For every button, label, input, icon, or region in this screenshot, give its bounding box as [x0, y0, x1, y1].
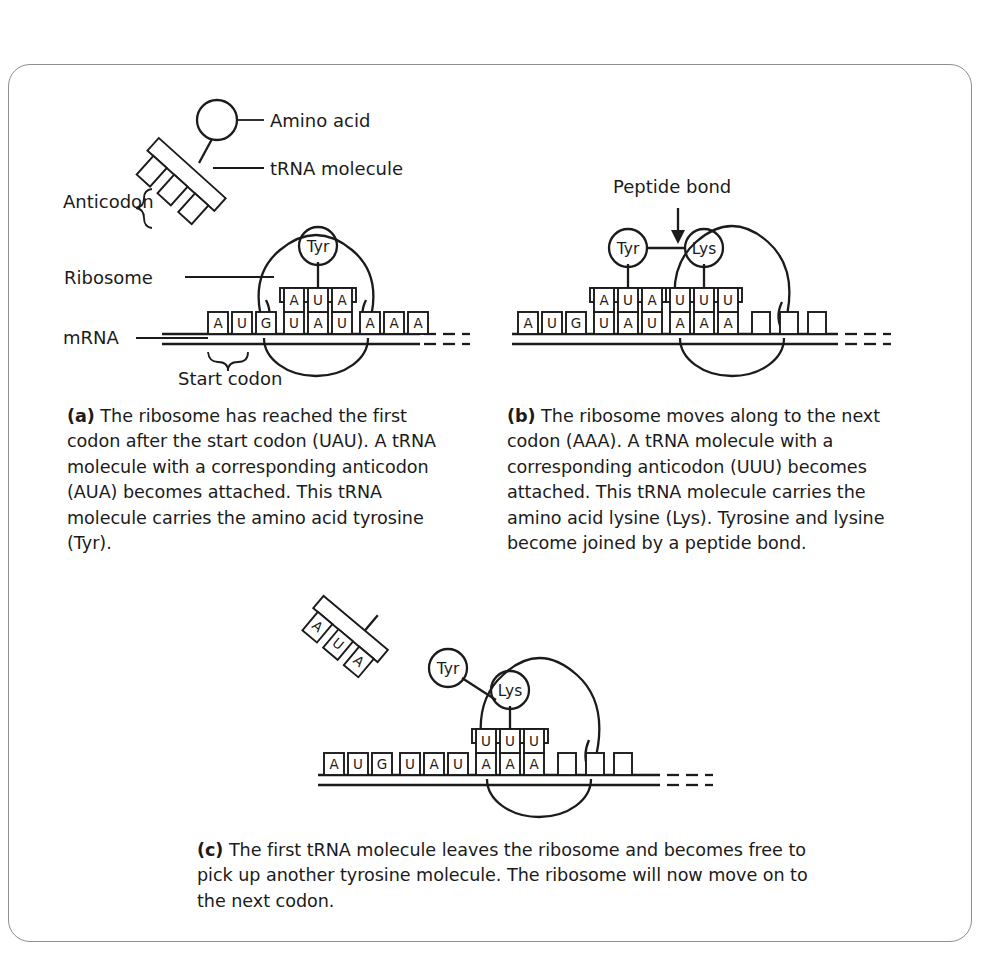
mrna-codon-boxes-a: A U G U A U A A A [208, 312, 428, 334]
panel-b-diagram: A U G U A U A A A A U [512, 208, 891, 376]
svg-text:A: A [523, 315, 533, 331]
svg-text:A: A [529, 756, 539, 772]
label-ribosome: Ribosome [64, 267, 153, 288]
empty-codon-box [586, 753, 604, 775]
panel-b-caption: (b) The ribosome moves along to the next… [507, 404, 907, 556]
svg-text:A: A [313, 315, 323, 331]
svg-text:A: A [389, 315, 399, 331]
svg-text:U: U [453, 756, 463, 772]
svg-text:U: U [647, 315, 657, 331]
svg-text:U: U [623, 292, 633, 308]
svg-text:A: A [429, 756, 439, 772]
mrna-codon-boxes-b: A U G U A U A A A [518, 312, 826, 334]
svg-text:U: U [405, 756, 415, 772]
panel-a-diagram: A U G U A U A A A A U A [136, 227, 470, 376]
svg-text:A: A [337, 292, 347, 308]
svg-text:U: U [699, 292, 709, 308]
tyr-label-c: Tyr [436, 660, 460, 678]
svg-text:U: U [289, 315, 299, 331]
svg-text:A: A [481, 756, 491, 772]
svg-text:A: A [365, 315, 375, 331]
svg-text:G: G [377, 756, 387, 772]
svg-text:Lys: Lys [692, 240, 716, 258]
panel-a-caption: (a) The ribosome has reached the first c… [67, 404, 439, 556]
svg-text:A: A [289, 292, 299, 308]
svg-text:U: U [599, 315, 609, 331]
svg-text:U: U [675, 292, 685, 308]
empty-codon-box [752, 312, 770, 334]
svg-text:G: G [261, 315, 271, 331]
svg-text:A: A [329, 756, 339, 772]
svg-text:U: U [353, 756, 363, 772]
empty-codon-box [780, 312, 798, 334]
svg-text:Tyr: Tyr [306, 238, 330, 256]
svg-text:A: A [413, 315, 423, 331]
svg-text:U: U [337, 315, 347, 331]
mrna-codon-boxes-c: A U G U A U A A A [324, 753, 632, 775]
label-mrna: mRNA [63, 327, 120, 348]
panel-c-caption-text: The first tRNA molecule leaves the ribos… [197, 840, 808, 911]
trna-tyr-b: A U A Tyr [590, 229, 666, 312]
peptide-bond-arrow-head [671, 230, 685, 244]
svg-text:A: A [675, 315, 685, 331]
label-anticodon: Anticodon [63, 191, 154, 212]
svg-text:Tyr: Tyr [616, 240, 640, 258]
empty-codon-box [558, 753, 576, 775]
amino-acid-stem [199, 139, 212, 163]
label-amino-acid: Amino acid [270, 110, 370, 131]
svg-text:U: U [313, 292, 323, 308]
svg-text:U: U [481, 733, 491, 749]
svg-text:U: U [723, 292, 733, 308]
trna-tyr-a: A U A Tyr [280, 227, 356, 312]
empty-codon-box [808, 312, 826, 334]
svg-text:U: U [547, 315, 557, 331]
svg-text:U: U [505, 733, 515, 749]
panel-b-tag: (b) [507, 406, 536, 426]
svg-text:A: A [599, 292, 609, 308]
label-trna-molecule: tRNA molecule [270, 158, 403, 179]
label-peptide-bond: Peptide bond [613, 176, 731, 197]
svg-text:A: A [699, 315, 709, 331]
panel-b-caption-text: The ribosome moves along to the next cod… [507, 406, 885, 553]
panel-c-caption: (c) The first tRNA molecule leaves the r… [197, 838, 812, 914]
label-start-codon: Start codon [178, 368, 282, 389]
svg-text:A: A [723, 315, 733, 331]
panel-a-tag: (a) [67, 406, 95, 426]
svg-text:G: G [571, 315, 581, 331]
panel-c-tag: (c) [197, 840, 223, 860]
free-trna-c: A U A [298, 580, 401, 680]
panel-a-caption-text: The ribosome has reached the first codon… [67, 406, 436, 553]
svg-text:U: U [529, 733, 539, 749]
svg-text:Lys: Lys [498, 682, 522, 700]
trna-lys-c: U U U Lys [472, 671, 548, 753]
amino-acid-circle [197, 100, 237, 140]
empty-codon-box [614, 753, 632, 775]
svg-text:U: U [237, 315, 247, 331]
svg-text:A: A [213, 315, 223, 331]
svg-text:A: A [647, 292, 657, 308]
panel-c-diagram: A U G U A U A A A U U [298, 580, 713, 817]
key-trna-bar [131, 138, 226, 229]
svg-text:A: A [505, 756, 515, 772]
svg-text:A: A [623, 315, 633, 331]
